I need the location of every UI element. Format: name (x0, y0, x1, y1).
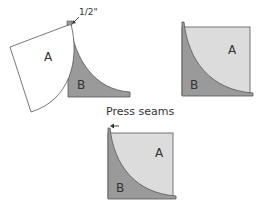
step3-label-b: B (116, 181, 124, 195)
step1-label-b: B (77, 78, 85, 92)
arrow-left-head-icon (110, 124, 114, 129)
step1-figure: 1/2" A B (10, 7, 130, 112)
step2-label-a: A (228, 43, 237, 57)
quilt-diagram: 1/2" A B A B Press seams A B (0, 0, 260, 208)
step3-label-a: A (155, 146, 164, 160)
seam-allowance-label: 1/2" (79, 7, 98, 17)
step2-figure: A B (182, 22, 253, 96)
step1-label-a: A (44, 50, 53, 64)
step2-label-b: B (190, 78, 198, 92)
seam-marker-icon (67, 21, 72, 25)
press-seams-title: Press seams (106, 105, 174, 118)
step1-piece-a (10, 24, 74, 112)
step3-figure: Press seams A B (106, 105, 176, 199)
